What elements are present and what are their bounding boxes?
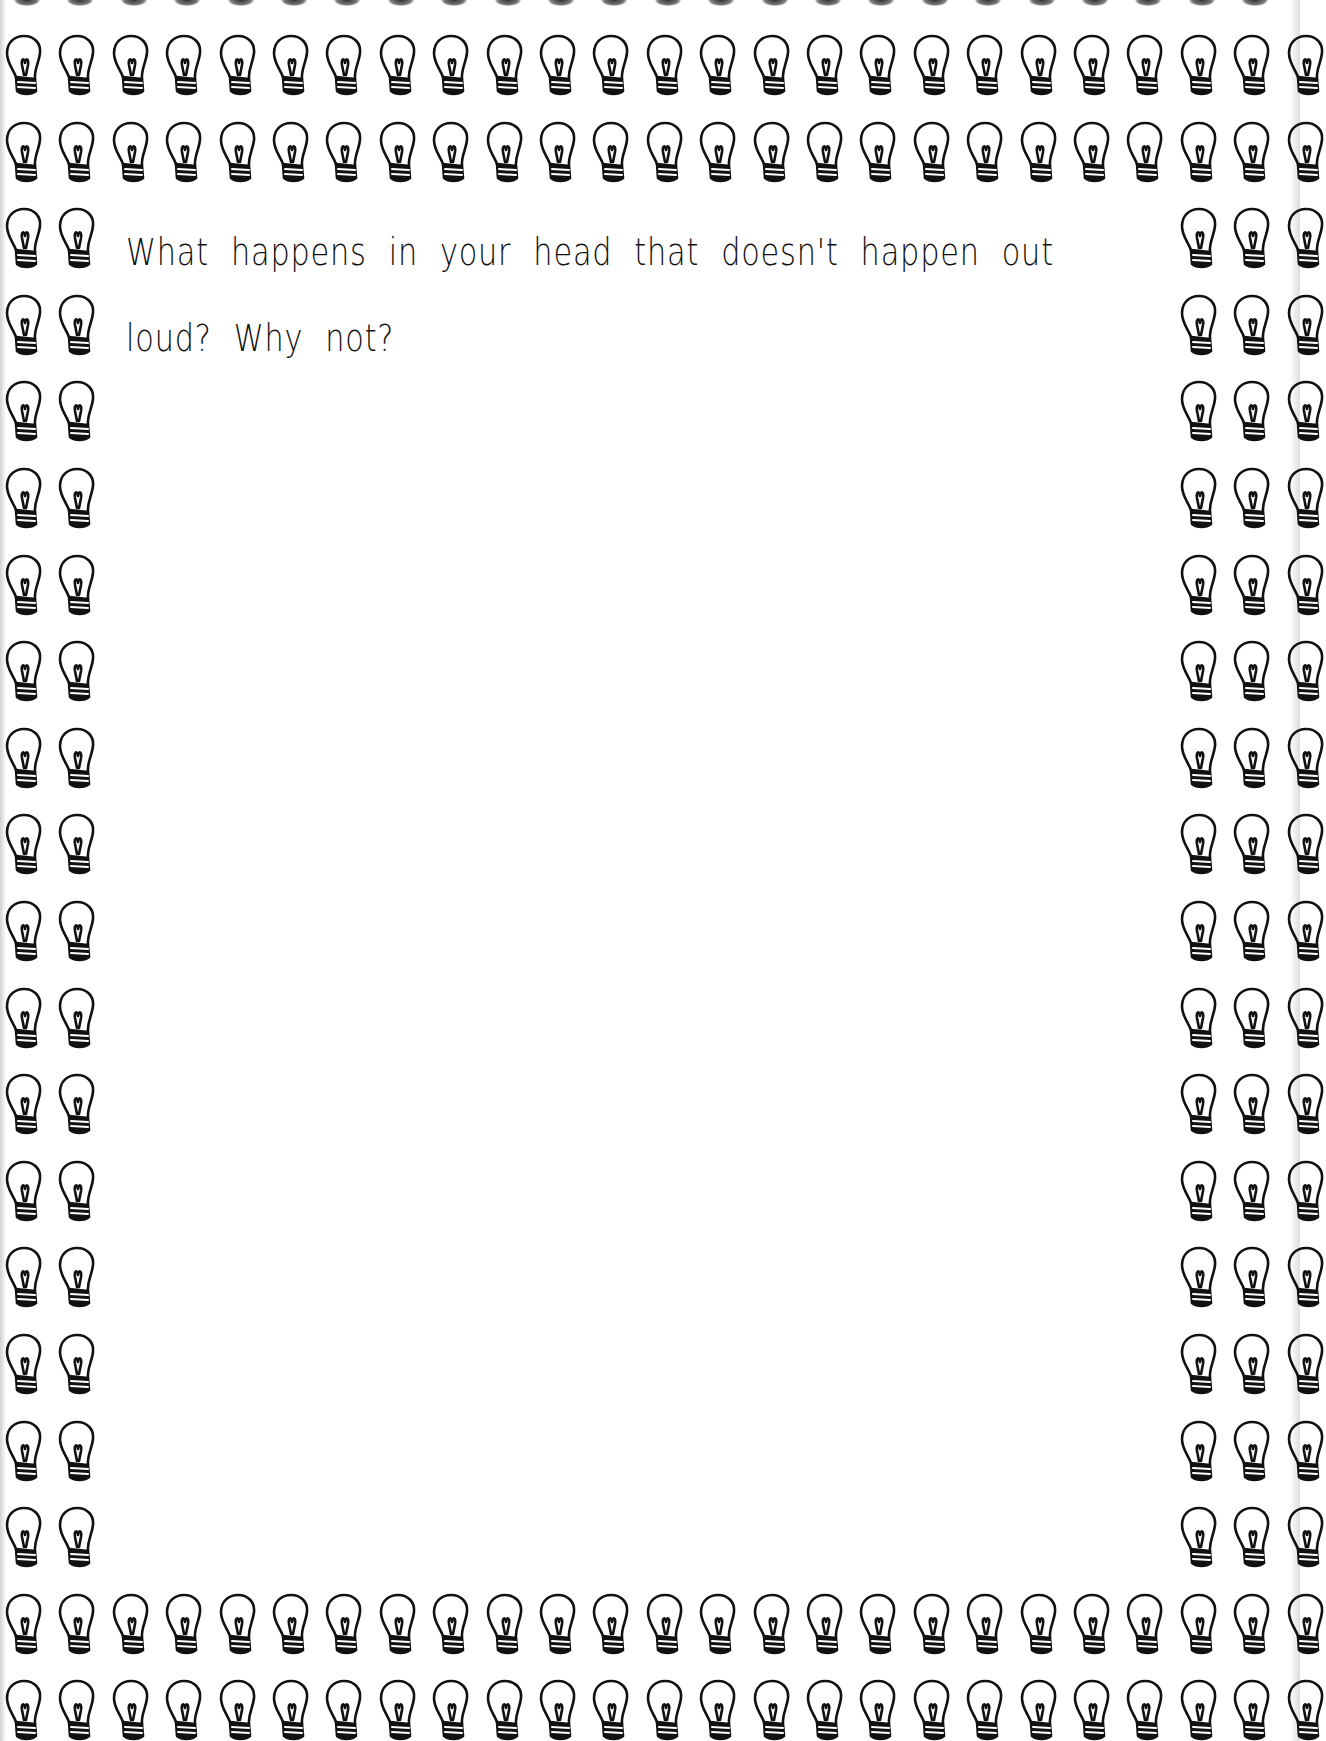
lightbulb-icon (591, 1678, 631, 1741)
lightbulb-icon (4, 466, 44, 532)
lightbulb-icon (218, 120, 258, 186)
lightbulb-icon (591, 1592, 631, 1658)
lightbulb-icon (912, 1678, 952, 1741)
lightbulb-icon (1125, 1678, 1165, 1741)
lightbulb-icon (1179, 120, 1219, 186)
lightbulb-icon (1232, 1159, 1272, 1225)
lightbulb-icon (965, 120, 1005, 186)
lightbulb-icon (164, 33, 204, 99)
lightbulb-icon (485, 1678, 525, 1741)
lightbulb-icon (57, 206, 97, 272)
lightbulb-icon (1179, 206, 1219, 272)
lightbulb-icon (1232, 206, 1272, 272)
lightbulb-icon (4, 120, 44, 186)
lightbulb-icon (1232, 1245, 1272, 1311)
lightbulb-icon (164, 1592, 204, 1658)
lightbulb-icon (4, 1592, 44, 1658)
lightbulb-icon (1179, 726, 1219, 792)
lightbulb-icon (538, 1592, 578, 1658)
spiral-hole (975, 0, 1001, 6)
lightbulb-icon (1286, 379, 1326, 445)
lightbulb-icon (1179, 1245, 1219, 1311)
lightbulb-icon (111, 120, 151, 186)
lightbulb-icon (1232, 1678, 1272, 1741)
lightbulb-icon (591, 120, 631, 186)
lightbulb-icon (431, 120, 471, 186)
lightbulb-icon (1286, 120, 1326, 186)
lightbulb-icon (111, 1678, 151, 1741)
lightbulb-icon (965, 1592, 1005, 1658)
spiral-hole (815, 0, 841, 6)
lightbulb-icon (1019, 33, 1059, 99)
lightbulb-icon (538, 1678, 578, 1741)
lightbulb-icon (1125, 120, 1165, 186)
lightbulb-icon (1072, 120, 1112, 186)
lightbulb-icon (1232, 1592, 1272, 1658)
lightbulb-icon (1232, 33, 1272, 99)
lightbulb-icon (1179, 293, 1219, 359)
lightbulb-icon (1286, 812, 1326, 878)
lightbulb-icon (378, 1592, 418, 1658)
lightbulb-icon (57, 899, 97, 965)
lightbulb-icon (698, 33, 738, 99)
spiral-hole (441, 0, 467, 6)
spiral-hole (228, 0, 254, 6)
lightbulb-icon (431, 1592, 471, 1658)
lightbulb-icon (1286, 899, 1326, 965)
spiral-hole (601, 0, 627, 6)
lightbulb-icon (1232, 553, 1272, 619)
lightbulb-icon (805, 1592, 845, 1658)
lightbulb-icon (1232, 899, 1272, 965)
lightbulb-icon (752, 33, 792, 99)
lightbulb-icon (538, 33, 578, 99)
lightbulb-icon (57, 33, 97, 99)
lightbulb-icon (378, 33, 418, 99)
lightbulb-icon (1179, 986, 1219, 1052)
spiral-hole (762, 0, 788, 6)
lightbulb-icon (645, 120, 685, 186)
spiral-hole (1189, 0, 1215, 6)
lightbulb-icon (57, 120, 97, 186)
lightbulb-icon (4, 1245, 44, 1311)
lightbulb-icon (4, 639, 44, 705)
lightbulb-icon (57, 553, 97, 619)
lightbulb-icon (1179, 1592, 1219, 1658)
lightbulb-icon (858, 1592, 898, 1658)
lightbulb-icon (1019, 1592, 1059, 1658)
lightbulb-icon (4, 1678, 44, 1741)
lightbulb-icon (645, 1678, 685, 1741)
lightbulb-icon (1286, 553, 1326, 619)
lightbulb-icon (1072, 1592, 1112, 1658)
lightbulb-icon (1286, 1592, 1326, 1658)
lightbulb-icon (1286, 1159, 1326, 1225)
lightbulb-icon (57, 379, 97, 445)
spiral-hole (1242, 0, 1268, 6)
lightbulb-icon (1232, 1332, 1272, 1398)
spiral-hole (1082, 0, 1108, 6)
lightbulb-icon (1179, 379, 1219, 445)
lightbulb-icon (324, 1678, 364, 1741)
lightbulb-icon (1232, 466, 1272, 532)
lightbulb-icon (1286, 33, 1326, 99)
spiral-hole (121, 0, 147, 6)
lightbulb-icon (111, 33, 151, 99)
lightbulb-icon (1232, 639, 1272, 705)
lightbulb-icon (1179, 1159, 1219, 1225)
lightbulb-icon (431, 33, 471, 99)
lightbulb-icon (752, 120, 792, 186)
lightbulb-icon (858, 1678, 898, 1741)
lightbulb-icon (4, 1159, 44, 1225)
lightbulb-icon (1125, 33, 1165, 99)
lightbulb-icon (324, 33, 364, 99)
lightbulb-icon (1286, 466, 1326, 532)
lightbulb-icon (912, 1592, 952, 1658)
lightbulb-icon (805, 120, 845, 186)
lightbulb-icon (57, 1592, 97, 1658)
lightbulb-icon (858, 120, 898, 186)
lightbulb-icon (218, 33, 258, 99)
spiral-hole (174, 0, 200, 6)
lightbulb-icon (912, 120, 952, 186)
lightbulb-icon (485, 120, 525, 186)
lightbulb-icon (1179, 812, 1219, 878)
spiral-hole (495, 0, 521, 6)
